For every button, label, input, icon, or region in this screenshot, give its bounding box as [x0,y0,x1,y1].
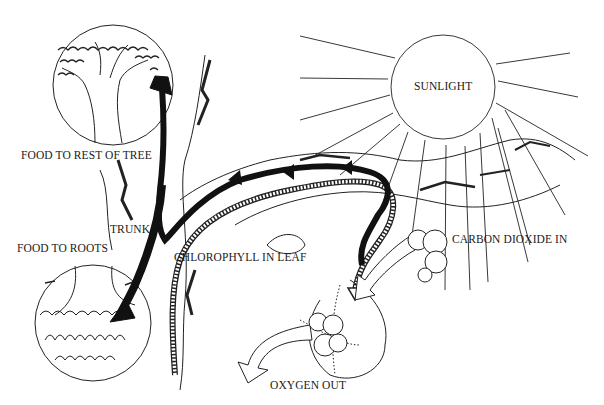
label-carbon-dioxide-in: CARBON DIOXIDE IN [452,233,567,245]
label-trunk: TRUNK [110,223,150,235]
co2-arrow [355,230,447,300]
label-chlorophyll-in-leaf: CHLOROPHYLL IN LEAF [174,251,306,263]
sun [300,35,588,290]
label-food-to-roots: FOOD TO ROOTS [17,242,108,254]
label-food-to-rest-of-tree: FOOD TO REST OF TREE [21,149,152,161]
label-oxygen-out: OXYGEN OUT [270,379,346,391]
label-sunlight: SUNLIGHT [414,80,472,92]
oxygen-arrow [238,313,347,383]
photosynthesis-diagram: SUNLIGHT FOOD TO REST OF TREE TRUNK FOOD… [0,0,604,405]
diagram-artwork [0,0,604,405]
